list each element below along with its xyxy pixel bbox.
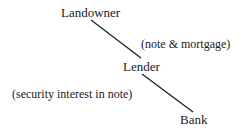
edge-landowner-lender [91,20,141,58]
node-landowner: Landowner [61,6,120,19]
node-lender: Lender [123,60,160,73]
node-bank: Bank [180,113,207,126]
diagram-canvas: Landowner (note & mortgage) Lender (secu… [0,0,248,131]
edge-lender-bank [142,74,193,112]
edge-label-note-mortgage: (note & mortgage) [141,38,230,50]
edge-label-security-interest: (security interest in note) [12,88,132,100]
